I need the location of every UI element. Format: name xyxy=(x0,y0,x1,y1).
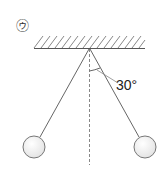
left-ball xyxy=(23,136,45,158)
left-string xyxy=(40,49,89,137)
right-ball xyxy=(134,136,156,158)
right-string xyxy=(90,49,139,137)
figure-label: ㋒ xyxy=(15,18,30,33)
angle-label: 30° xyxy=(116,77,137,93)
ceiling-hatch xyxy=(34,36,145,48)
